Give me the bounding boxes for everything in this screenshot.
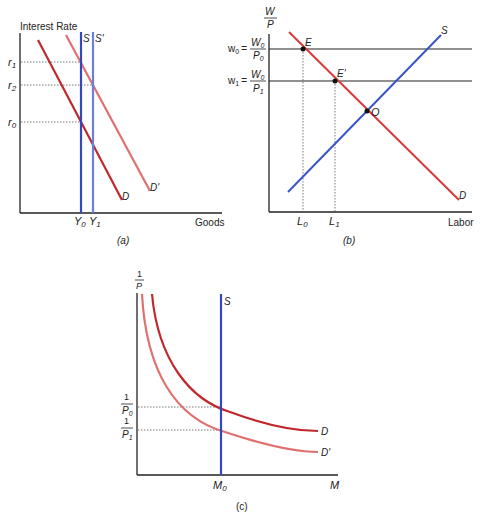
panel-b-w0-label: w0= [227,43,247,55]
panel-b-w0-frac-num: W0 [251,37,264,49]
panel-c-p1-den: P1 [122,429,133,441]
panel-c: 1 P S D D' 1 P0 1 P1 M0 M (c) [121,269,340,512]
panel-c-xlabel: M [330,479,340,491]
figure: Interest Rate S S' D D' r1 r2 r0 Y0 Y1 G… [0,0,480,518]
panel-b-d-label: D [459,190,466,201]
panel-c-caption: (c) [236,501,248,512]
panel-b-w1-frac-den: P1 [253,83,264,95]
panel-a-s-prime-label: S' [95,33,105,44]
panel-c-ylabel-num: 1 [137,269,142,279]
panel-a-caption: (a) [117,235,129,246]
panel-b-l1-label: L1 [329,215,340,229]
panel-b-w1-label: w1= [227,75,247,87]
panel-c-d-prime-label: D' [321,447,331,458]
panel-a-r2-label: r2 [8,79,17,93]
panel-b-e-label: E [305,37,312,48]
panel-b-caption: (b) [343,235,355,246]
panel-a-y0-label: Y0 [74,215,86,229]
panel-b-supply-s [288,35,441,192]
panel-c-demand-d [152,294,318,431]
panel-a: Interest Rate S S' D D' r1 r2 r0 Y0 Y1 G… [8,21,224,246]
panel-b-ylabel-den: P [267,19,274,30]
panel-a-d-label: D [122,191,129,202]
panel-a-ylabel: Interest Rate [20,21,78,32]
panel-b-l0-label: L0 [297,215,308,229]
panel-c-s-label: S [224,296,231,307]
panel-c-p0-num: 1 [124,392,129,402]
panel-a-d-prime-label: D' [150,182,160,193]
panel-b-o-label: O [371,106,380,118]
panel-a-demand-d-prime [66,35,150,191]
panel-b-point-o [365,109,370,114]
panel-b-point-e-prime [333,79,338,84]
panel-c-d-label: D [321,426,328,437]
panel-a-y1-label: Y1 [89,215,101,229]
panel-a-xlabel: Goods [195,217,224,228]
panel-b-w0-frac-den: P0 [253,50,264,62]
panel-c-m0-label: M0 [213,479,227,493]
panel-a-s-label: S [83,33,90,44]
panel-b-e-prime-label: E' [337,68,347,79]
panel-b: W P E E' O S D w0= W0 P0 w1= W0 P1 L0 L [227,6,474,246]
panel-b-ylabel-num: W [265,6,276,17]
panel-b-w1-frac-num: W0 [251,69,264,81]
panel-a-r0-label: r0 [8,116,17,130]
panel-a-r1-label: r1 [8,56,16,70]
panel-b-s-label: S [441,25,448,36]
panel-c-p1-num: 1 [124,416,129,426]
panel-b-xlabel: Labor [448,217,474,228]
panel-c-ylabel-den: P [136,281,142,291]
